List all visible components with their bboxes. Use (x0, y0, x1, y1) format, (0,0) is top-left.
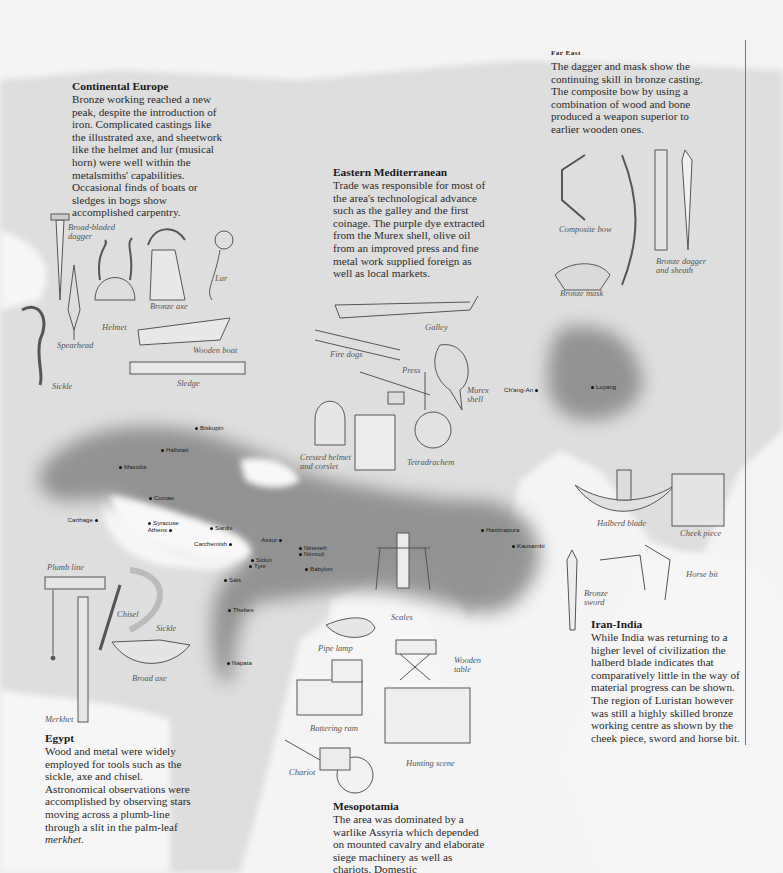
city-name: Tyre (254, 562, 266, 569)
broad-axe-icon (112, 640, 190, 663)
bow-icon (622, 155, 636, 285)
galley-icon (335, 296, 478, 318)
city-dot-icon (195, 427, 198, 430)
label-broad-axe: Broad axe (132, 674, 167, 683)
label-composite-bow: Composite bow (559, 225, 612, 234)
label-sledge: Sledge (177, 379, 200, 388)
city-dot-icon (535, 389, 538, 392)
label-lur: Lur (215, 274, 227, 283)
city-marker: Ch'ang-An (496, 386, 538, 393)
city-name: Loyang (596, 383, 616, 390)
label-bronze-mask: Bronze mask (560, 289, 603, 298)
city-marker: Athens (130, 526, 172, 533)
sickle-icon (22, 307, 44, 385)
wooden-table-icon (396, 640, 436, 680)
city-dot-icon (95, 519, 98, 522)
city-name: Napata (232, 659, 252, 666)
sledge-icon (130, 362, 245, 374)
city-dot-icon (224, 579, 227, 582)
city-name: Biskupin (200, 424, 223, 431)
label-spearhead: Spearhead (57, 341, 93, 350)
label-press: Press (402, 366, 421, 375)
dagger-sheath-icon (655, 150, 692, 250)
scales-icon (376, 533, 430, 590)
label-crested-helmet: Crested helmet and corslet (300, 453, 362, 471)
label-chariot: Chariot (289, 768, 315, 777)
label-sickle-egypt: Sickle (156, 624, 176, 633)
city-marker: Sardis (210, 524, 233, 531)
city-dot-icon (591, 386, 594, 389)
label-bronze-sword: Bronze sword (584, 589, 612, 607)
city-name: Thebes (233, 606, 254, 613)
city-marker: Babylon (305, 565, 332, 572)
label-pipe-lamp: Pipe lamp (318, 644, 353, 653)
city-dot-icon (249, 565, 252, 568)
label-merkhet: Merkhet (45, 715, 73, 724)
halberd-blade-icon (575, 470, 675, 511)
label-bronze-dagger: Bronze dagger and sheath (656, 257, 712, 275)
city-marker: Carchemish (190, 540, 232, 547)
city-marker: Hastinapura (481, 526, 519, 533)
pipe-lamp-icon (326, 618, 375, 638)
label-fire-dogs: Fire dogs (330, 350, 363, 359)
city-marker: Syracuse (148, 519, 179, 526)
city-marker: Carthage (56, 516, 98, 523)
city-dot-icon (169, 529, 172, 532)
label-plumb-line: Plumb line (47, 563, 84, 572)
city-dot-icon (148, 522, 151, 525)
label-halberd-blade: Halberd blade (597, 519, 646, 528)
city-name: Assur (261, 536, 277, 543)
composite-bow-icon (562, 155, 585, 220)
city-marker: Nimrud (299, 550, 324, 557)
coin-icon (415, 412, 451, 448)
city-marker: Cumae (149, 494, 174, 501)
lur-icon (210, 231, 233, 300)
label-scales: Scales (391, 613, 413, 622)
label-tetradrachem: Tetradrachem (407, 458, 454, 467)
spearhead-icon (68, 265, 80, 340)
city-name: Babylon (310, 565, 332, 572)
label-sickle-europe: Sickle (52, 382, 72, 391)
city-dot-icon (161, 449, 164, 452)
city-name: Ch'ang-An (504, 386, 533, 393)
label-bronze-axe: Bronze axe (150, 302, 188, 311)
city-name: Hallstatt (166, 446, 188, 453)
bronze-sword-icon (567, 550, 577, 630)
city-marker: Biskupin (195, 424, 223, 431)
crested-helmet-icon (315, 401, 345, 445)
cheek-piece-icon (672, 474, 724, 526)
city-dot-icon (305, 568, 308, 571)
murex-shell-icon (435, 345, 468, 410)
city-name: Carchemish (194, 540, 227, 547)
battering-ram-icon (297, 660, 362, 715)
label-helmet: Helmet (102, 323, 127, 332)
city-dot-icon (299, 553, 302, 556)
city-name: Kausambi (517, 542, 545, 549)
label-battering-ram: Battering ram (310, 724, 358, 733)
city-marker: Loyang (591, 383, 616, 390)
helmet-icon (95, 238, 135, 300)
city-dot-icon (210, 527, 213, 530)
label-murex-shell: Murex shell (467, 386, 495, 404)
label-galley: Galley (425, 323, 448, 332)
label-chisel: Chisel (117, 610, 139, 619)
merkhet-icon (78, 597, 88, 722)
city-marker: Sais (224, 576, 241, 583)
city-dot-icon (229, 543, 232, 546)
city-name: Sais (229, 576, 241, 583)
city-marker: Assur (240, 536, 282, 543)
city-dot-icon (512, 545, 515, 548)
label-hunting-scene: Hunting scene (406, 759, 455, 768)
city-marker: Tyre (249, 562, 266, 569)
boat-icon (138, 318, 230, 345)
hunting-scene-icon (385, 688, 470, 743)
city-marker: Hallstatt (161, 446, 188, 453)
city-marker: Napata (227, 659, 252, 666)
city-name: Athens (148, 526, 167, 533)
city-marker: Massilia (119, 463, 146, 470)
city-dot-icon (228, 609, 231, 612)
city-dot-icon (279, 539, 282, 542)
bronze-mask-icon (555, 264, 610, 290)
city-dot-icon (119, 466, 122, 469)
label-wooden-table: Wooden table (454, 656, 484, 674)
